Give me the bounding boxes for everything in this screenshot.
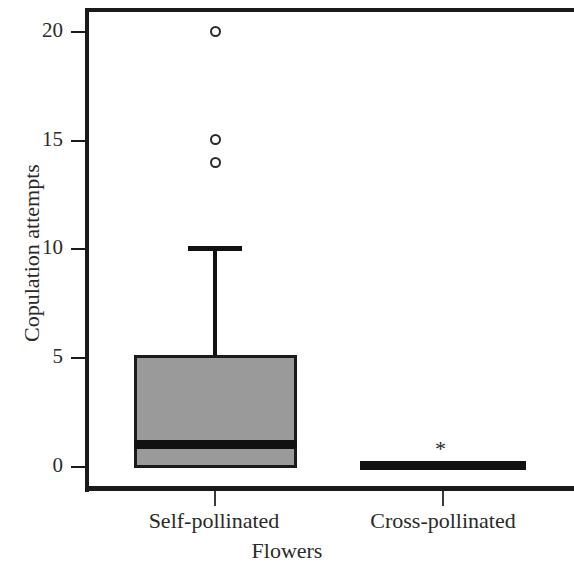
median-line-self: [134, 440, 297, 449]
y-tick-15: [71, 140, 85, 142]
whisker-cap-upper-self: [188, 246, 242, 251]
outlier-point: [210, 134, 221, 145]
box-self-pollinated: [134, 355, 297, 468]
x-tick-cross-pollinated: [442, 491, 444, 506]
y-tick-label-0: 0: [35, 455, 63, 476]
x-axis-line: [85, 486, 574, 491]
x-tick-label-self-pollinated: Self-pollinated: [124, 508, 304, 534]
x-axis-title: Flowers: [0, 538, 574, 564]
x-tick-self-pollinated: [214, 491, 216, 506]
y-axis-line: [85, 8, 89, 492]
y-tick-10: [71, 248, 85, 250]
y-tick-0: [71, 466, 85, 468]
whisker-upper-self: [213, 248, 217, 358]
y-tick-5: [71, 357, 85, 359]
y-tick-20: [71, 31, 85, 33]
outlier-point: [210, 157, 221, 168]
axis-frame-top: [85, 8, 574, 12]
outlier-point: [210, 26, 221, 37]
y-axis-title: Copulation attempts: [19, 128, 45, 378]
x-tick-label-cross-pollinated: Cross-pollinated: [350, 508, 536, 534]
box-plot-figure: 20 15 10 5 0 Copulation attempts * Self-…: [0, 0, 574, 571]
box-cross-pollinated: [360, 461, 526, 470]
significance-asterisk: *: [435, 440, 446, 458]
y-tick-label-20: 20: [35, 20, 63, 41]
